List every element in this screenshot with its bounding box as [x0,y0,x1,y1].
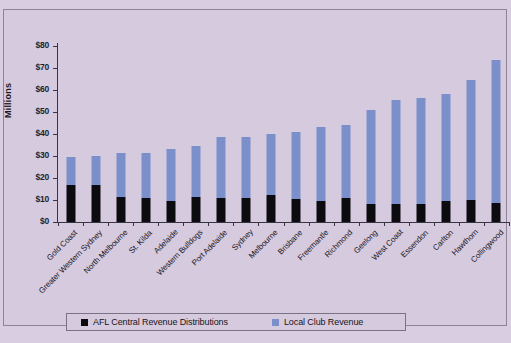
bar-slot[interactable] [434,10,459,223]
bar-slot[interactable] [359,10,384,223]
bar-slot[interactable] [459,10,484,223]
bar-slot[interactable] [58,10,83,223]
bar-segment-local-club-revenue[interactable] [367,110,376,204]
stacked-bar[interactable] [116,153,125,222]
legend-swatch-icon [272,319,279,326]
bar-slot[interactable] [108,10,133,223]
x-axis-tick-mark [384,222,385,226]
chart-legend: AFL Central Revenue DistributionsLocal C… [66,313,406,331]
bar-segment-local-club-revenue[interactable] [392,100,401,203]
bar-slot[interactable] [83,10,108,223]
bar-segment-afl-central-revenue[interactable] [292,199,301,222]
bar-slot[interactable] [133,10,158,223]
x-axis-tick-mark [509,222,510,226]
stacked-bar[interactable] [166,149,175,222]
y-axis-tick-label: $80 [35,40,49,50]
chart-frame: Millions $80$70$60$50$40$30$20$10$0 Gold… [3,9,507,326]
bar-segment-afl-central-revenue[interactable] [266,195,275,222]
stacked-bar[interactable] [292,132,301,222]
stacked-bar[interactable] [392,100,401,222]
bar-slot[interactable] [258,10,283,223]
stacked-bar[interactable] [191,146,200,222]
bar-slot[interactable] [208,10,233,223]
x-axis-tick-mark [83,222,84,226]
stacked-bar[interactable] [467,80,476,222]
bar-slot[interactable] [309,10,334,223]
bar-slot[interactable] [158,10,183,223]
bar-segment-local-club-revenue[interactable] [191,146,200,197]
legend-label: Local Club Revenue [284,317,363,327]
bar-segment-afl-central-revenue[interactable] [166,201,175,222]
bar-segment-local-club-revenue[interactable] [166,149,175,201]
stacked-bar[interactable] [266,134,275,222]
y-axis-title: Millions [3,83,13,118]
bar-segment-afl-central-revenue[interactable] [91,185,100,222]
x-axis-tick-mark [434,222,435,226]
bar-segment-afl-central-revenue[interactable] [342,198,351,222]
x-axis-tick-mark [309,222,310,226]
bar-segment-local-club-revenue[interactable] [91,156,100,185]
bar-segment-local-club-revenue[interactable] [317,127,326,201]
bar-segment-local-club-revenue[interactable] [342,125,351,198]
x-axis-tick-mark [284,222,285,226]
stacked-bar[interactable] [241,137,250,222]
bar-segment-local-club-revenue[interactable] [292,132,301,199]
bar-segment-local-club-revenue[interactable] [467,80,476,200]
bar-segment-afl-central-revenue[interactable] [392,204,401,222]
stacked-bar[interactable] [342,125,351,222]
bar-slot[interactable] [409,10,434,223]
bar-segment-local-club-revenue[interactable] [116,153,125,197]
bar-slot[interactable] [284,10,309,223]
x-axis-tick-mark [459,222,460,226]
stacked-bar[interactable] [91,156,100,222]
bar-segment-local-club-revenue[interactable] [417,98,426,204]
bar-slot[interactable] [334,10,359,223]
stacked-bar[interactable] [442,94,451,222]
stacked-bar[interactable] [317,127,326,222]
y-axis-tick-label: $10 [35,194,49,204]
bar-segment-afl-central-revenue[interactable] [467,200,476,222]
x-axis-tick-mark [208,222,209,226]
bar-segment-local-club-revenue[interactable] [492,60,501,203]
bar-segment-afl-central-revenue[interactable] [241,198,250,222]
x-axis-label: North Melbourne [82,228,129,275]
x-axis-tick-mark [233,222,234,226]
bar-segment-afl-central-revenue[interactable] [492,203,501,222]
x-axis-label: St. Kilda [127,228,154,255]
bar-segment-local-club-revenue[interactable] [266,134,275,196]
legend-item[interactable]: AFL Central Revenue Distributions [81,317,228,327]
stacked-bar[interactable] [492,60,501,222]
bar-segment-local-club-revenue[interactable] [141,153,150,198]
y-axis-tick-label: $30 [35,150,49,160]
stacked-bar[interactable] [216,137,225,222]
stacked-bar[interactable] [141,153,150,222]
bar-segment-local-club-revenue[interactable] [216,137,225,198]
bar-segment-afl-central-revenue[interactable] [367,204,376,222]
bar-segment-afl-central-revenue[interactable] [141,198,150,222]
bar-slot[interactable] [183,10,208,223]
stacked-bar[interactable] [367,110,376,222]
bar-segment-afl-central-revenue[interactable] [417,204,426,222]
x-axis-tick-mark [409,222,410,226]
stacked-bar[interactable] [66,157,75,222]
y-axis-tick-label: $0 [40,216,49,226]
x-axis-tick-mark [133,222,134,226]
bar-segment-afl-central-revenue[interactable] [116,197,125,222]
stacked-bar[interactable] [417,98,426,223]
legend-item[interactable]: Local Club Revenue [272,317,363,327]
x-axis-tick-mark [484,222,485,226]
x-axis-tick-mark [158,222,159,226]
bar-segment-local-club-revenue[interactable] [241,137,250,198]
bar-slot[interactable] [484,10,509,223]
x-axis-tick-mark [258,222,259,226]
bar-segment-afl-central-revenue[interactable] [216,198,225,222]
bar-segment-local-club-revenue[interactable] [442,94,451,201]
bar-segment-afl-central-revenue[interactable] [66,185,75,222]
bar-segment-local-club-revenue[interactable] [66,157,75,185]
bar-segment-afl-central-revenue[interactable] [442,201,451,222]
bar-slot[interactable] [233,10,258,223]
bar-segment-afl-central-revenue[interactable] [317,201,326,222]
legend-label: AFL Central Revenue Distributions [93,317,228,327]
bar-segment-afl-central-revenue[interactable] [191,197,200,222]
bar-slot[interactable] [384,10,409,223]
